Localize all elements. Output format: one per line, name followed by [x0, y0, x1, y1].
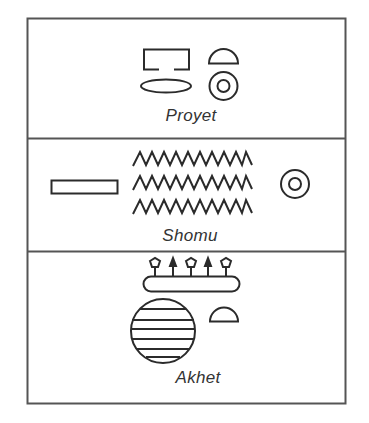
striped-circle-placenta-icon: [131, 299, 195, 363]
long-rectangle-pool-icon: [52, 181, 118, 194]
panel-proyet: [141, 49, 238, 100]
plants-row-icon: [150, 258, 231, 276]
half-dome-bread-icon: [210, 308, 238, 322]
panel-shomu: [52, 152, 310, 214]
season-label-akhet: Akhet: [98, 368, 298, 388]
sun-double-circle-icon: [210, 72, 238, 100]
zigzag-water-icon-3: [133, 200, 252, 214]
figure-canvas: [0, 0, 369, 423]
flat-ellipse-icon: [141, 80, 191, 93]
rounded-bar-icon: [144, 277, 240, 292]
zigzag-water-icon-2: [133, 176, 252, 190]
zigzag-water-icon-1: [133, 152, 252, 166]
season-label-proyet: Proyet: [91, 106, 291, 126]
outer-frame: [28, 19, 346, 404]
half-dome-bread-icon: [209, 49, 238, 64]
seasons-figure: Proyet Shomu Akhet: [0, 0, 369, 423]
panel-akhet: [131, 258, 240, 363]
season-label-shomu: Shomu: [90, 226, 290, 246]
open-rectangle-house-icon: [144, 50, 189, 70]
sun-double-circle-icon: [281, 170, 309, 198]
